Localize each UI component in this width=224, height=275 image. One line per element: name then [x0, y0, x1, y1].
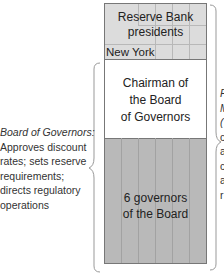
chairman-label-line2: the Board: [105, 92, 206, 109]
annotation-line: operations: [0, 198, 100, 213]
annotation-line: M: [220, 101, 224, 116]
governors-label-line1: 6 governors: [105, 190, 206, 207]
reserve-bank-label-line2: presidents: [105, 24, 206, 41]
annotation-line: a: [220, 173, 224, 188]
chairman-label-line3: of Governors: [105, 109, 206, 126]
annotation-line: F: [220, 86, 224, 101]
annotation-line: c: [220, 159, 224, 174]
annotation-title: Board of Governors:: [0, 125, 100, 140]
annotation-line: (: [220, 115, 224, 130]
chairman-label-line1: Chairman of: [105, 75, 206, 92]
annotation-line: rates; sets reserve: [0, 154, 100, 169]
annotation-line: r: [220, 188, 224, 203]
fomc-annotation-truncated: F M ( c a c a r: [220, 86, 224, 202]
board-of-governors-annotation: Board of Governors: Approves discount ra…: [0, 125, 100, 212]
divider: [105, 59, 206, 60]
new-york-label: New York: [106, 45, 155, 59]
annotation-line: requirements;: [0, 169, 100, 184]
annotation-line: directs regulatory: [0, 183, 100, 198]
governors-label-line2: of the Board: [105, 206, 206, 223]
annotation-line: a: [220, 144, 224, 159]
annotation-line: Approves discount: [0, 140, 100, 155]
annotation-line: c: [220, 130, 224, 145]
